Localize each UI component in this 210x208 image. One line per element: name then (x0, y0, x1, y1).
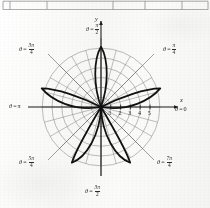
table-strip (3, 1, 208, 9)
equals-symbol: = (90, 26, 93, 32)
angle-label-theta-3pi-over-2: θ = 3π 2 (85, 185, 101, 197)
theta-symbol: θ (85, 188, 88, 194)
equals-symbol: = (13, 103, 16, 109)
equals-symbol: = (161, 159, 164, 165)
equals-symbol: = (179, 106, 182, 112)
angle-label-theta-5pi-over-4: θ = 5π 4 (19, 156, 35, 168)
fraction: π 2 (95, 23, 100, 35)
radial-tick-5: 5 (148, 110, 151, 116)
y-axis-label: y (95, 15, 98, 22)
zero-symbol: 0 (184, 106, 187, 112)
radial-tick-2: 2 (118, 110, 121, 116)
polar-rose-figure (0, 0, 210, 208)
theta-symbol: θ (19, 46, 22, 52)
angle-label-theta-pi: θ = π (9, 103, 21, 109)
x-axis-label: x (180, 96, 183, 103)
radial-tick-3: 3 (128, 110, 131, 116)
fraction: π 4 (172, 43, 177, 55)
theta-symbol: θ (9, 103, 12, 109)
theta-symbol: θ (86, 26, 89, 32)
theta-symbol: θ (19, 159, 22, 165)
equals-symbol: = (23, 46, 26, 52)
theta-symbol: θ (163, 46, 166, 52)
angle-label-theta-3pi-over-4: θ = 3π 4 (19, 43, 35, 55)
fraction: 3π 2 (94, 185, 101, 197)
equals-symbol: = (89, 188, 92, 194)
angle-label-theta-pi-over-4: θ = π 4 (163, 43, 176, 55)
theta-symbol: θ (157, 159, 160, 165)
angle-label-theta-7pi-over-4: θ = 7π 4 (157, 156, 173, 168)
fraction: 3π 4 (28, 43, 35, 55)
radial-tick-1: 1 (109, 110, 112, 116)
figure-stage: y x 1 2 3 4 5 θ = π 2 θ = π 4 θ = 3π 4 θ… (0, 0, 210, 208)
angle-label-theta-0: θ = 0 (175, 106, 187, 112)
fraction: 5π 4 (28, 156, 35, 168)
radial-tick-4: 4 (138, 110, 141, 116)
theta-symbol: θ (175, 106, 178, 112)
equals-symbol: = (23, 159, 26, 165)
pi-symbol: π (18, 103, 21, 109)
angle-label-theta-pi-over-2: θ = π 2 (86, 23, 99, 35)
equals-symbol: = (167, 46, 170, 52)
fraction: 7π 4 (166, 156, 173, 168)
